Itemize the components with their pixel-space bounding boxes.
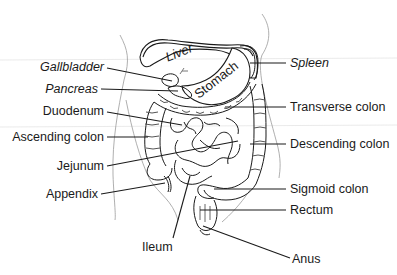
label-anus: Anus (292, 253, 321, 266)
label-ileum: Ileum (142, 241, 173, 254)
label-pancreas: Pancreas (45, 83, 98, 96)
label-descending-colon: Descending colon (290, 138, 389, 151)
descending-colon-shape (248, 84, 266, 184)
cecum-appendix-shape (147, 164, 172, 192)
label-ascending-colon: Ascending colon (12, 131, 104, 144)
label-gallbladder: Gallbladder (40, 61, 104, 74)
label-appendix: Appendix (46, 188, 98, 201)
label-duodenum: Duodenum (43, 105, 104, 118)
gallbladder-shape (162, 68, 188, 87)
label-spleen: Spleen (290, 57, 329, 70)
small-intestine-shape (170, 118, 240, 185)
label-sigmoid-colon: Sigmoid colon (290, 183, 369, 196)
label-rectum: Rectum (290, 204, 333, 217)
label-jejunum: Jejunum (57, 160, 104, 173)
label-transverse-colon: Transverse colon (290, 101, 385, 114)
